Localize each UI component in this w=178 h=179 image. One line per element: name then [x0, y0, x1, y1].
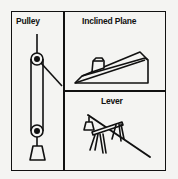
bottom-pulley-axle	[35, 129, 39, 133]
top-pulley-axle	[35, 57, 39, 61]
pulley-weight	[30, 146, 45, 160]
lever-illustration	[84, 115, 150, 157]
fulcrum-leg	[90, 135, 95, 150]
diagram-art	[0, 0, 178, 179]
inclined-plane-illustration	[75, 52, 148, 83]
pulley-illustration	[30, 34, 62, 160]
lever-weight	[84, 122, 94, 130]
pull-rope	[41, 63, 62, 86]
